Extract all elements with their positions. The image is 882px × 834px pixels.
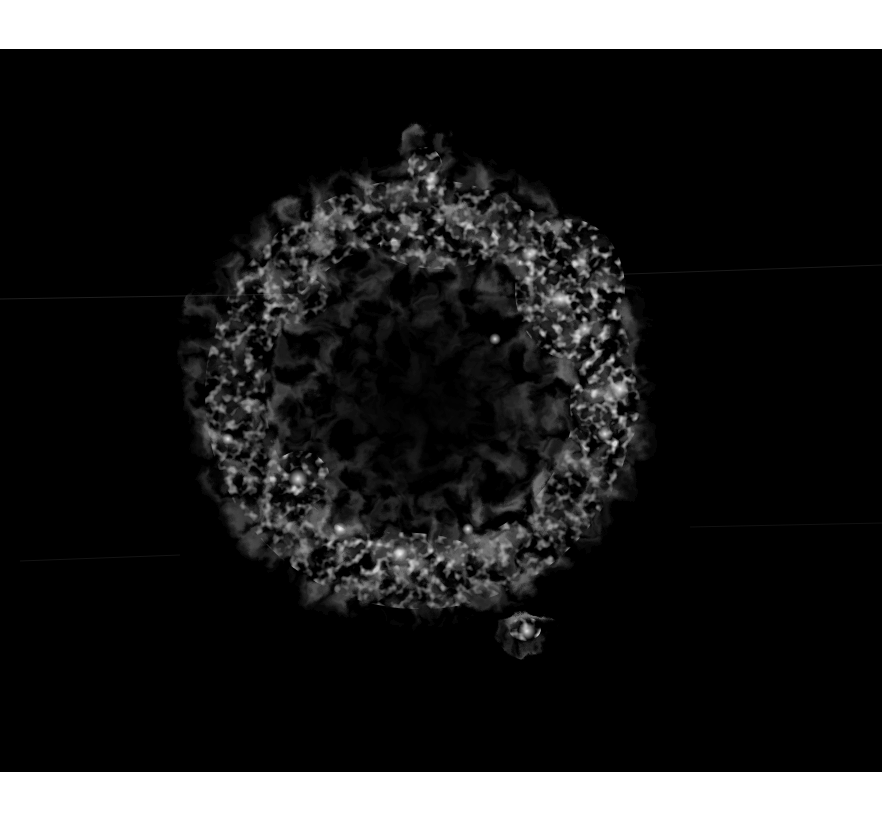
supernova-remnant-image bbox=[0, 49, 882, 772]
central-void bbox=[315, 309, 535, 509]
image-frame: Grayscale X-ray style image of a roughly… bbox=[0, 49, 882, 772]
